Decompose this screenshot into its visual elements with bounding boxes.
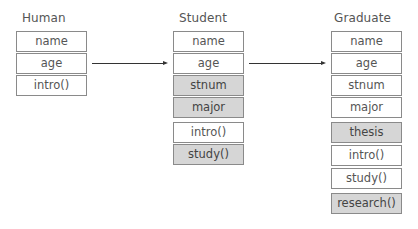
graduate-field-thesis: thesis [331, 122, 402, 143]
student-field-name: name [173, 31, 244, 52]
student-field-major: major [173, 97, 244, 118]
human-field-name: name [16, 31, 87, 52]
graduate-method-research: research() [331, 193, 402, 214]
class-title-human: Human [22, 11, 66, 25]
graduate-field-name: name [331, 31, 402, 52]
class-title-graduate: Graduate [334, 11, 391, 25]
human-field-age: age [16, 53, 87, 74]
student-field-stnum: stnum [173, 75, 244, 96]
graduate-field-stnum: stnum [331, 75, 402, 96]
student-method-study: study() [173, 144, 244, 165]
student-field-age: age [173, 53, 244, 74]
student-method-intro: intro() [173, 122, 244, 143]
inheritance-arrow-student-graduate [249, 63, 322, 64]
graduate-field-major: major [331, 97, 402, 118]
inheritance-arrow-human-student [92, 63, 164, 64]
graduate-method-intro: intro() [331, 145, 402, 166]
graduate-field-age: age [331, 53, 402, 74]
graduate-method-study: study() [331, 168, 402, 189]
class-title-student: Student [179, 11, 227, 25]
human-method-intro: intro() [16, 75, 87, 96]
